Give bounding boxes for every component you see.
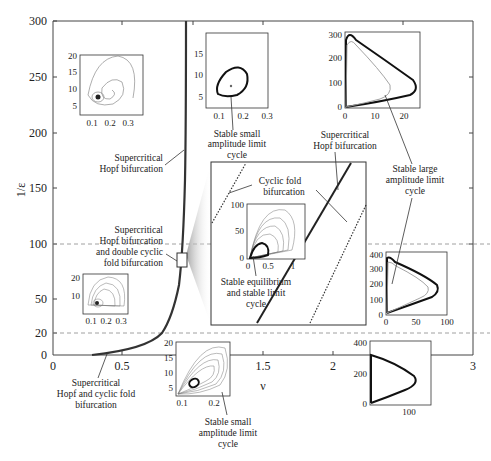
svg-text:50: 50 — [412, 317, 422, 327]
annotation-hopf-main: Supercritical Hopf bifurcation — [99, 150, 184, 174]
x-tick-1.5: 1.5 — [256, 359, 271, 373]
x-tick-0: 0 — [50, 359, 56, 373]
y-axis-label: 1/ε — [14, 183, 28, 197]
svg-text:cycle: cycle — [218, 439, 238, 449]
svg-text:0.2: 0.2 — [237, 111, 248, 121]
svg-text:5: 5 — [73, 101, 78, 111]
svg-text:200: 200 — [370, 279, 384, 289]
svg-text:Hopf bifurcation: Hopf bifurcation — [99, 236, 163, 246]
annotation-small-cycle-top: Stable small amplitude limit cycle — [208, 129, 267, 160]
svg-text:Stable small: Stable small — [205, 417, 252, 427]
svg-text:20: 20 — [164, 338, 174, 348]
svg-text:0.1: 0.1 — [85, 316, 96, 326]
x-tick-3: 3 — [470, 359, 476, 373]
x-tick-2: 2 — [330, 359, 336, 373]
svg-text:0.3: 0.3 — [122, 118, 134, 128]
svg-text:100: 100 — [329, 78, 343, 88]
x-axis-label: ν — [260, 379, 266, 393]
svg-text:Hopf bifurcation: Hopf bifurcation — [99, 164, 163, 174]
zoom-shading — [186, 162, 211, 325]
svg-text:0.3: 0.3 — [261, 111, 273, 121]
y-tick-200: 200 — [29, 126, 47, 140]
inset-middle-left: 20 10 0.1 0.2 0.3 — [71, 273, 128, 326]
svg-text:cycle: cycle — [246, 299, 266, 309]
y-tick-20: 20 — [35, 326, 47, 340]
svg-text:300: 300 — [370, 264, 384, 274]
svg-text:Stable large: Stable large — [393, 164, 438, 174]
svg-text:bifurcation: bifurcation — [263, 187, 305, 197]
bifurcation-chart: 300 250 200 150 100 50 20 0 0 0.5 1.5 2 … — [0, 0, 491, 461]
svg-text:0: 0 — [246, 261, 251, 271]
svg-text:10: 10 — [71, 291, 81, 301]
x-tick-0.5: 0.5 — [115, 359, 130, 373]
y-tick-100: 100 — [29, 237, 47, 251]
svg-text:10: 10 — [194, 70, 204, 80]
y-tick-0: 0 — [41, 348, 47, 362]
svg-text:0.5: 0.5 — [262, 261, 274, 271]
svg-text:15: 15 — [164, 353, 174, 363]
svg-text:0: 0 — [379, 310, 384, 320]
y-tick-150: 150 — [29, 181, 47, 195]
svg-text:Hopf and cyclic fold: Hopf and cyclic fold — [57, 389, 136, 399]
svg-text:Supercritical: Supercritical — [321, 130, 370, 140]
zoom-region-marker — [177, 253, 187, 267]
svg-text:15: 15 — [194, 49, 204, 59]
svg-text:Cyclic fold: Cyclic fold — [259, 176, 302, 186]
svg-text:10: 10 — [68, 84, 78, 94]
svg-text:Supercritical: Supercritical — [72, 378, 121, 388]
svg-text:amplitude limit: amplitude limit — [199, 428, 258, 438]
svg-text:10: 10 — [371, 111, 381, 121]
svg-text:50: 50 — [235, 226, 245, 236]
svg-text:1: 1 — [291, 261, 296, 271]
svg-text:Stable small: Stable small — [214, 129, 261, 139]
svg-text:amplitude limit: amplitude limit — [208, 139, 267, 149]
y-tick-250: 250 — [29, 70, 47, 84]
svg-text:0: 0 — [363, 399, 368, 409]
svg-text:0.2: 0.2 — [208, 398, 219, 408]
svg-text:cycle: cycle — [405, 186, 425, 196]
svg-text:amplitude limit: amplitude limit — [386, 175, 445, 185]
svg-text:100: 100 — [370, 295, 384, 305]
svg-text:0.1: 0.1 — [213, 111, 224, 121]
svg-text:5: 5 — [169, 383, 174, 393]
svg-text:cycle: cycle — [227, 150, 247, 160]
inset-top-middle: 15 10 5 0.1 0.2 0.3 — [194, 33, 273, 130]
svg-text:0.1: 0.1 — [176, 398, 187, 408]
svg-text:20: 20 — [400, 111, 410, 121]
svg-text:300: 300 — [329, 30, 343, 40]
svg-text:20: 20 — [68, 51, 78, 61]
inset-middle-right: 400 300 200 100 0 0 50 100 — [370, 250, 455, 327]
svg-text:20: 20 — [71, 273, 81, 283]
svg-text:and stable limit: and stable limit — [227, 288, 286, 298]
svg-text:and double cyclic: and double cyclic — [96, 247, 163, 257]
svg-text:0.3: 0.3 — [115, 316, 127, 326]
svg-text:100: 100 — [402, 407, 416, 417]
svg-text:fold bifurcation: fold bifurcation — [104, 258, 164, 268]
y-tick-50: 50 — [35, 292, 47, 306]
inset-bottom-middle: 20 15 10 5 0.1 0.2 — [164, 338, 230, 408]
svg-text:400: 400 — [354, 338, 368, 348]
svg-text:100: 100 — [231, 200, 245, 210]
svg-text:0: 0 — [343, 111, 348, 121]
svg-text:bifurcation: bifurcation — [75, 400, 117, 410]
svg-text:5: 5 — [199, 92, 204, 102]
svg-text:0: 0 — [384, 317, 389, 327]
svg-text:0: 0 — [240, 253, 245, 263]
svg-text:15: 15 — [68, 67, 78, 77]
svg-text:200: 200 — [354, 369, 368, 379]
svg-text:0: 0 — [338, 102, 343, 112]
svg-text:Supercritical: Supercritical — [114, 153, 163, 163]
svg-text:Hopf bifurcation: Hopf bifurcation — [313, 141, 377, 151]
svg-text:200: 200 — [329, 53, 343, 63]
svg-text:400: 400 — [370, 250, 384, 260]
inset-bottom-right: 400 200 0 100 — [354, 338, 432, 417]
y-tick-300: 300 — [29, 14, 47, 28]
svg-text:0.1: 0.1 — [86, 118, 97, 128]
inset-top-left: 20 15 10 5 0.1 0.2 0.3 — [68, 51, 143, 128]
svg-text:100: 100 — [440, 317, 454, 327]
svg-text:10: 10 — [164, 368, 174, 378]
svg-text:0.2: 0.2 — [100, 316, 111, 326]
svg-text:0.2: 0.2 — [104, 118, 115, 128]
y-tick-labels: 300 250 200 150 100 50 20 0 — [29, 14, 47, 362]
inset-top-right: 300 200 100 0 0 10 20 — [329, 30, 421, 121]
